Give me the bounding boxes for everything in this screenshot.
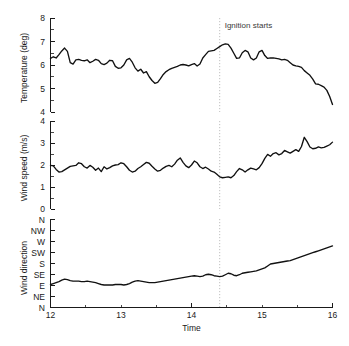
ytick-label: 2: [40, 160, 45, 170]
yticklabels-wind-speed: 4 3 2 1 0: [40, 116, 45, 214]
xtick-label: 14: [187, 310, 197, 320]
ytickmarks-temperature: [51, 18, 56, 112]
ytick-label: NE: [33, 292, 45, 302]
ytick-label: SW: [31, 248, 45, 258]
panel-temperature: Temperature (deg) 8 7 6 5 4 Ign: [19, 13, 333, 117]
xtick-label: 12: [46, 310, 56, 320]
axis-label-temperature: Temperature (deg): [19, 33, 29, 103]
ytick-label: 6: [40, 60, 45, 70]
xtick-label: 16: [328, 310, 338, 320]
yticklabels-wind-direction: N NW W SW S SE E NE N: [31, 215, 46, 313]
ytick-label: N: [39, 303, 45, 313]
ytick-label: NW: [31, 226, 45, 236]
ytick-label: N: [39, 215, 45, 225]
axis-label-wind-direction: Wind direction: [19, 241, 29, 295]
panel-wind-direction: Wind direction N NW W SW S SE E NE N: [19, 215, 337, 334]
ytick-label: 7: [40, 37, 45, 47]
axis-label-wind-speed: Wind speed (m/s): [19, 135, 29, 202]
ytick-label: E: [39, 281, 45, 291]
ytick-label: 5: [40, 84, 45, 94]
ytick-label: 0: [40, 204, 45, 214]
xticklabels: 12 13 14 15 16: [46, 310, 338, 320]
ytick-label: 1: [40, 182, 45, 192]
axis-label-time: Time: [182, 323, 201, 333]
ytickmarks-wind-direction: [51, 219, 56, 307]
yticklabels-temperature: 8 7 6 5 4: [40, 13, 45, 117]
ignition-annotation-label: Ignition starts: [225, 21, 273, 30]
series-line-wind-speed: [51, 137, 333, 177]
ytick-label: 3: [40, 138, 45, 148]
panel-wind-speed: Wind speed (m/s) 4 3 2 1 0: [19, 116, 333, 214]
xtickmarks: [51, 303, 333, 308]
xtick-label: 13: [116, 310, 126, 320]
ytick-label: S: [39, 259, 45, 269]
series-line-temperature: [51, 44, 333, 105]
xtick-label: 15: [257, 310, 267, 320]
ytick-label: W: [37, 237, 45, 247]
series-line-wind-direction: [51, 246, 333, 285]
meteorological-timeseries-figure: Temperature (deg) 8 7 6 5 4 Ign: [0, 0, 349, 346]
ytick-label: SE: [34, 270, 46, 280]
ytick-label: 8: [40, 13, 45, 23]
chart-canvas: Temperature (deg) 8 7 6 5 4 Ign: [0, 0, 349, 346]
ytick-label: 4: [40, 116, 45, 126]
